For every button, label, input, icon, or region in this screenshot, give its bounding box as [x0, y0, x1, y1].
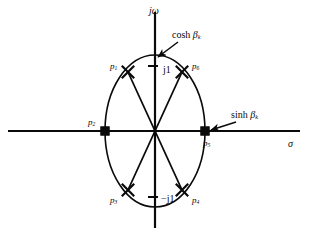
pole-zero-plot-figure: jω σ p1p2p3p4p5p6j1−j1cosh βksinh βk [0, 0, 312, 237]
pole-p2-marker [101, 127, 109, 135]
radius-to-p1 [128, 72, 155, 131]
pole-p4-label: p4 [192, 196, 199, 206]
tick-j1-positive-label: j1 [163, 65, 171, 75]
pole-p3-label: p3 [110, 196, 117, 206]
pole-p6-label: p6 [192, 62, 199, 72]
radius-to-p6 [155, 72, 182, 131]
radius-to-p4 [155, 131, 182, 190]
annotation-cosh-beta-label: cosh βk [172, 30, 201, 40]
radius-to-p3 [128, 131, 155, 190]
pole-p5-label: p5 [203, 139, 210, 149]
annotation-cosh-beta-arrow [158, 42, 178, 57]
annotation-sinh-beta-arrow [211, 122, 236, 130]
real-axis-label: σ [288, 139, 293, 149]
annotation-sinh-beta-label: sinh βk [231, 110, 258, 120]
pole-p2-label: p2 [88, 118, 95, 128]
tick-j1-negative-label: −j1 [161, 194, 174, 204]
plot-canvas [0, 0, 312, 237]
pole-p1-label: p1 [110, 62, 117, 72]
imaginary-axis-label: jω [149, 6, 159, 16]
pole-p5-marker [201, 127, 209, 135]
